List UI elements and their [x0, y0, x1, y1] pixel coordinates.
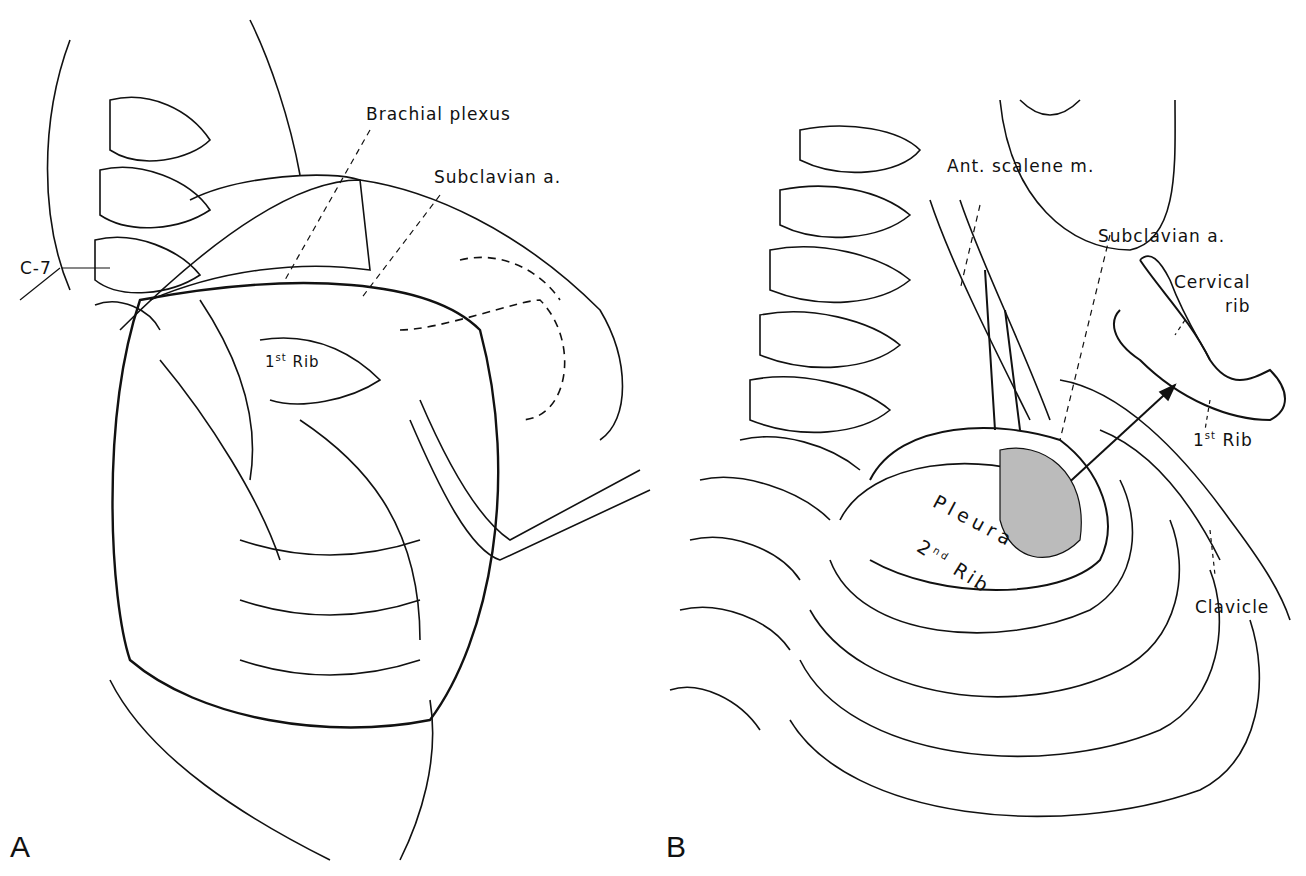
first-rib-word: Rib [292, 353, 319, 371]
panel-letter-a: A [10, 830, 30, 864]
first-rib-suffix: st [276, 352, 287, 363]
label-first-rib-b: 1st Rib [1193, 430, 1253, 450]
first-rib-number: 1 [1193, 430, 1205, 450]
first-rib-suffix: st [1205, 430, 1216, 441]
label-first-rib-a: 1st Rib [265, 352, 320, 371]
label-cervical-rib-line2: rib [1225, 296, 1251, 316]
label-c7: C-7 [20, 258, 52, 278]
panel-letter-b: B [666, 830, 686, 864]
label-clavicle: Clavicle [1195, 597, 1269, 617]
label-cervical-rib-line1: Cervical [1174, 272, 1251, 292]
anatomical-illustration [0, 0, 1306, 876]
label-brachial-plexus: Brachial plexus [366, 104, 511, 124]
first-rib-word: Rib [1222, 430, 1252, 450]
first-rib-number: 1 [265, 353, 276, 371]
label-subclavian-artery-b: Subclavian a. [1098, 226, 1225, 246]
neck-outline-a [48, 40, 71, 290]
label-subclavian-artery-a: Subclavian a. [434, 167, 561, 187]
label-ant-scalene: Ant. scalene m. [947, 156, 1094, 176]
